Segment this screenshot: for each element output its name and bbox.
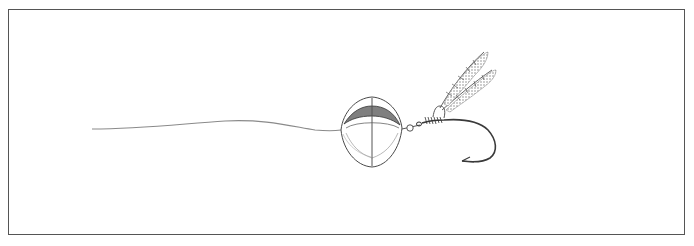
- feather-dressing-icon: [440, 52, 496, 112]
- fishing-line-icon: [92, 121, 341, 131]
- spinner-blade-icon: [341, 97, 402, 167]
- lure-illustration: [0, 0, 694, 246]
- hook-icon: [422, 106, 495, 162]
- bead-icon: [402, 122, 422, 131]
